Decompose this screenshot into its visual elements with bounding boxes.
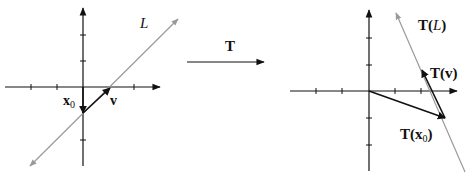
diagram-canvas: L x0 v T T(L) T(v) T(x0) — [0, 0, 466, 176]
linear-transformation-diagram: L x0 v T T(L) T(v) T(x0) — [0, 0, 466, 176]
left-coordinate-plane: L x0 v — [5, 8, 178, 166]
label-T-x0: T(x0) — [400, 126, 433, 144]
label-v: v — [110, 93, 117, 108]
vector-v — [83, 88, 110, 113]
label-L: L — [139, 15, 148, 31]
line-T-L — [396, 13, 465, 172]
label-T-L: T(L) — [418, 17, 446, 34]
label-x0: x0 — [63, 93, 75, 110]
right-coordinate-plane: T(L) T(v) T(x0) — [290, 10, 465, 172]
label-T: T — [225, 38, 235, 54]
transformation-arrow: T — [187, 38, 264, 62]
label-T-v: T(v) — [430, 65, 458, 82]
